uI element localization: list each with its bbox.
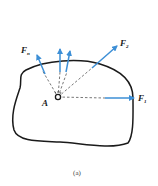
force-diagram: A Fn F2 F1 (a) (0, 0, 158, 186)
figure-caption: (a) (73, 169, 81, 177)
force-f2-label: F2 (119, 38, 129, 49)
force-arrows (37, 46, 134, 98)
point-a-pin (55, 94, 60, 99)
dashed-action-lines (42, 68, 105, 98)
rigid-body-outline (13, 61, 133, 146)
point-a-label: A (41, 98, 48, 108)
force-f1-label: F1 (137, 93, 147, 104)
force-fn-label: Fn (20, 45, 30, 56)
